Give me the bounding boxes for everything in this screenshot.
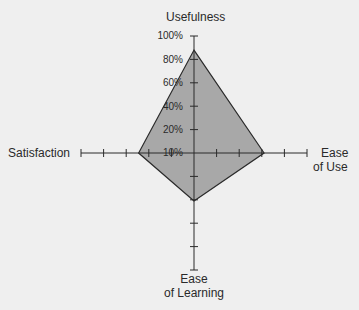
axis-label-ease-of-use-line1: Ease [313, 146, 348, 160]
tick-label-60: 60% [143, 77, 183, 88]
tick-label-10: 10% [143, 147, 183, 158]
axis-label-usefulness: Usefulness [166, 10, 225, 24]
tick-label-40: 40% [143, 101, 183, 112]
axis-label-satisfaction: Satisfaction [8, 146, 70, 160]
axis-label-ease-of-learning-line1: Ease [154, 272, 234, 286]
axis-label-ease-of-use: Ease of Use [313, 146, 348, 174]
axis-label-ease-of-use-line2: of Use [313, 160, 348, 174]
tick-label-100: 100% [143, 30, 183, 41]
radar-chart: Usefulness Satisfaction Ease of Use Ease… [0, 0, 359, 310]
axis-label-ease-of-learning-line2: of Learning [154, 286, 234, 300]
tick-label-80: 80% [143, 54, 183, 65]
tick-label-20: 20% [143, 124, 183, 135]
axis-label-ease-of-learning: Ease of Learning [154, 272, 234, 300]
